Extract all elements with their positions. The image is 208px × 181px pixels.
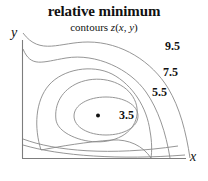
contour-label-3_5: 3.5 <box>119 109 134 121</box>
contour-label-5_5: 5.5 <box>152 86 167 98</box>
contour-path-5_5 <box>37 69 152 158</box>
contour-label-9_5: 9.5 <box>165 40 180 52</box>
contour-label-7_5: 7.5 <box>163 66 178 78</box>
subtitle-prefix: contours <box>70 21 111 33</box>
figure-subtitle: contours z(x, y) <box>0 22 208 33</box>
relative-minimum-point-marker <box>96 114 100 118</box>
contour-plot-figure: relative minimum contours z(x, y) y x 3.… <box>0 0 208 181</box>
x-axis-label: x <box>190 150 196 164</box>
subtitle-close-paren: ) <box>134 21 138 33</box>
y-axis-label: y <box>11 26 17 40</box>
figure-title: relative minimum <box>0 4 208 19</box>
